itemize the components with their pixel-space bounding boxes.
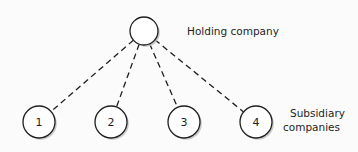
connector-lines <box>51 40 244 112</box>
connector-line-4 <box>155 40 244 112</box>
connector-line-1 <box>51 40 133 111</box>
subsidiary-node-4-number: 4 <box>253 116 260 129</box>
connector-line-2 <box>117 44 140 107</box>
holding-company-label: Holding company <box>187 25 279 37</box>
holding-company-node <box>130 17 160 47</box>
subsidiary-node-3: 3 <box>168 106 202 140</box>
org-diagram: 1234 Holding company Subsidiary companie… <box>0 0 358 152</box>
subsidiary-label-line1: Subsidiary <box>290 107 345 119</box>
subsidiary-node-2: 2 <box>95 106 129 140</box>
subsidiary-node-4: 4 <box>240 106 274 140</box>
subsidiary-node-1: 1 <box>23 106 57 140</box>
subsidiary-node-2-number: 2 <box>108 116 115 129</box>
subsidiary-node-3-number: 3 <box>181 116 188 129</box>
diagram-canvas: 1234 Holding company Subsidiary companie… <box>0 0 358 152</box>
connector-line-3 <box>150 44 178 108</box>
subsidiary-label-line2: companies <box>283 121 340 133</box>
subsidiary-node-1-number: 1 <box>36 116 43 129</box>
